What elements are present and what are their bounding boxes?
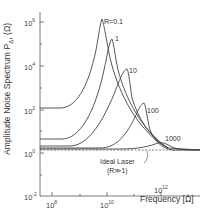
y-tick-1e2: 102	[24, 105, 35, 116]
annotation-ideal-laser: Ideal Laser	[100, 158, 135, 165]
y-tick-1e6: 106	[24, 17, 35, 28]
ideal-laser-pointer	[144, 151, 148, 163]
annotation-r100: 100	[147, 107, 159, 114]
x-tick-1e10: 1010	[100, 199, 114, 210]
x-axis-label: Frequency [Ω]	[140, 194, 194, 204]
annotation-r01: R=0.1	[104, 18, 123, 25]
annotation-r1: 1	[115, 35, 119, 42]
annotation-r10: 10	[129, 67, 137, 74]
y-tick-1e4: 104	[24, 61, 35, 72]
annotation-ideal-condition: (R≫1)	[107, 167, 128, 175]
y-tick-1e-2: 10-2	[24, 191, 37, 202]
y-tick-1e0: 100	[24, 148, 35, 159]
series-r01	[40, 19, 168, 148]
y-axis-label: Amplitude Noise Spectrum PΔr (Ω)	[2, 23, 14, 155]
series-r100	[40, 103, 200, 150]
annotation-r1000: 1000	[165, 135, 181, 142]
y-ticks	[40, 22, 44, 175]
x-tick-1e8: 108	[46, 199, 57, 210]
